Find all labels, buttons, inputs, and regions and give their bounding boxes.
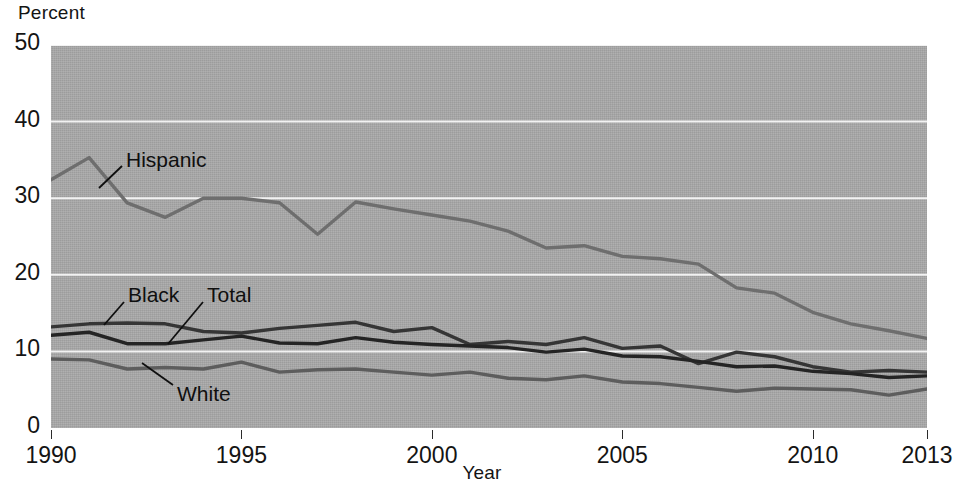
leader-line-white [142, 363, 173, 385]
leader-line-black [104, 302, 124, 325]
leader-line-svg [0, 0, 964, 497]
series-label-black: Black [128, 283, 179, 307]
series-label-hispanic: Hispanic [126, 148, 207, 172]
series-label-total: Total [207, 283, 251, 307]
series-label-white: White [177, 382, 231, 406]
leader-line-total [168, 302, 203, 344]
chart-canvas: Percent 01020304050 19901995200020052010… [0, 0, 964, 497]
leader-line-hispanic [99, 166, 122, 188]
x-axis-title: Year [0, 462, 964, 484]
